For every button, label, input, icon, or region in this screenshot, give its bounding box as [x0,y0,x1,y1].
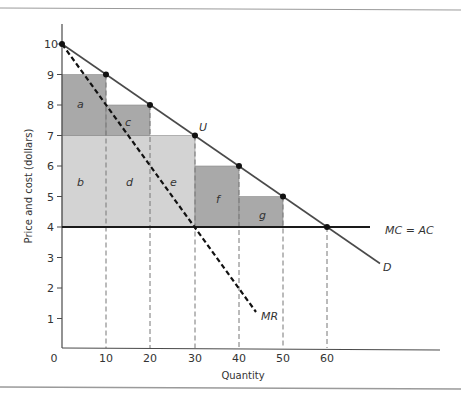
label-a: a [77,98,84,111]
y-tick-6: 6 [47,160,54,173]
y-axis-title: Price and cost (dollars) [23,129,34,244]
label-c: c [125,116,131,129]
label-b: b [77,176,84,189]
point-q40 [236,163,242,169]
point-q20 [147,102,153,108]
point-q50 [280,194,286,200]
label-d-curve: D [383,261,391,274]
y-tick-7: 7 [47,130,54,143]
y-ticks [57,44,62,319]
shaded-areas [62,75,283,228]
y-tick-2: 2 [47,282,54,295]
label-g: g [259,209,266,222]
x-tick-30: 30 [188,352,202,365]
y-tick-4: 4 [47,221,54,234]
x-axis [62,348,440,350]
y-tick-9: 9 [47,69,54,82]
bottom-rule [0,387,461,389]
y-tick-labels: 1 2 3 4 5 6 7 8 9 10 [44,38,58,326]
label-mc-ac: MC = AC [385,224,434,237]
x-tick-10: 10 [99,352,113,365]
x-axis-title: Quantity [221,370,264,381]
x-tick-50: 50 [276,352,290,365]
y-tick-3: 3 [47,252,54,265]
top-rule [0,8,461,10]
x-tick-40: 40 [232,352,246,365]
x-tick-0: 0 [51,352,58,365]
point-q60 [324,224,330,230]
y-tick-8: 8 [47,99,54,112]
y-tick-5: 5 [47,191,54,204]
x-tick-labels: 0 10 20 30 40 50 60 [51,352,335,365]
y-tick-10: 10 [44,38,58,51]
label-e: e [170,176,177,189]
label-u: U [199,121,207,134]
x-tick-20: 20 [143,352,157,365]
label-mr: MR [261,310,278,323]
label-d: d [126,176,134,189]
area-a [62,75,106,136]
point-q10 [103,72,109,78]
chart-figure: 1 2 3 4 5 6 7 8 9 10 0 10 20 30 40 50 60… [0,0,461,405]
point-u [192,133,198,139]
y-tick-1: 1 [47,313,54,326]
x-tick-60: 60 [320,352,334,365]
point-q0 [59,41,65,47]
